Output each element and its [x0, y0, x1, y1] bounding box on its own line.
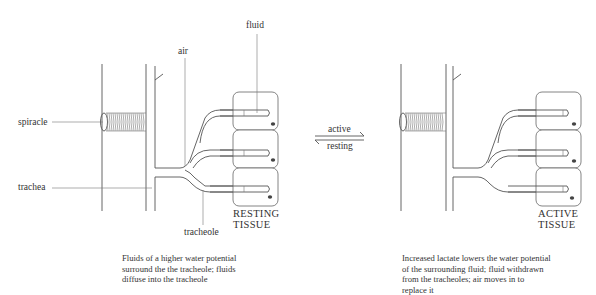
resting-tissue-label: RESTING TISSUE — [233, 208, 279, 230]
transition-resting-label: resting — [327, 141, 353, 152]
resting-tissue-cells — [233, 92, 278, 206]
active-tissue-label: ACTIVE TISSUE — [538, 208, 578, 230]
label-spiracle: spiracle — [18, 117, 48, 128]
resting-caption: Fluids of a higher water potential surro… — [122, 253, 236, 285]
label-fluid: fluid — [246, 20, 264, 31]
active-label-line1: ACTIVE — [538, 208, 578, 219]
active-label-line2: TISSUE — [538, 219, 578, 230]
label-trachea: trachea — [18, 182, 45, 193]
active-tissue-diagram — [400, 64, 582, 211]
resting-label-line2: TISSUE — [233, 219, 279, 230]
label-air: air — [178, 46, 188, 57]
trachea-tube — [155, 66, 240, 211]
spiracle-coil — [101, 113, 147, 131]
resting-tissue-diagram — [0, 0, 596, 295]
transition-active-label: active — [328, 124, 351, 135]
active-caption: Increased lactate lowers the water poten… — [402, 253, 551, 295]
leader-lines — [52, 34, 257, 225]
resting-label-line1: RESTING — [233, 208, 279, 219]
spiracle-coil-active — [400, 113, 447, 131]
label-tracheole: tracheole — [184, 227, 219, 238]
